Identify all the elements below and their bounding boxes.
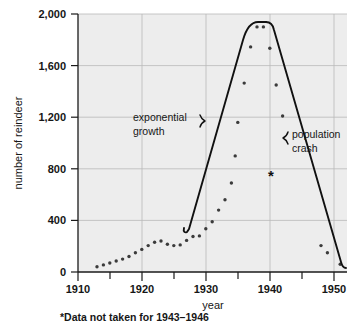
data-point	[249, 45, 252, 48]
data-point	[95, 265, 98, 268]
data-point	[198, 234, 201, 237]
annotation-population-crash-line1: population	[292, 128, 341, 140]
data-point	[211, 220, 214, 223]
data-point	[236, 121, 239, 124]
y-tick-label-800: 800	[48, 163, 66, 175]
data-point	[102, 263, 105, 266]
annotation-exponential-growth-line2: growth	[133, 125, 165, 137]
x-tick-label-1930: 1930	[194, 283, 218, 295]
data-point	[230, 181, 233, 184]
y-tick-label-400: 400	[48, 214, 66, 226]
data-point	[234, 154, 237, 157]
missing-data-asterisk-icon: *	[268, 167, 274, 184]
y-axis-title: number of reindeer	[12, 96, 24, 189]
data-point	[153, 241, 156, 244]
data-point	[127, 255, 130, 258]
data-point	[319, 244, 322, 247]
chart-footnote: *Data not taken for 1943–1946	[60, 311, 209, 323]
data-point	[147, 244, 150, 247]
data-point	[223, 198, 226, 201]
data-point	[191, 235, 194, 238]
y-tick-labels: 2,000 1,600 1,200 800 400 0	[38, 8, 66, 278]
data-point	[179, 243, 182, 246]
data-point	[166, 243, 169, 246]
data-point	[275, 83, 278, 86]
chart-figure: 2,000 1,600 1,200 800 400 0 1910 1920 19…	[0, 0, 354, 328]
data-point	[115, 259, 118, 262]
y-tick-label-1200: 1,200	[38, 111, 66, 123]
data-point	[172, 244, 175, 247]
x-tick-label-1950: 1950	[322, 283, 346, 295]
data-point	[255, 25, 258, 28]
annotation-population-crash-line2: crash	[292, 142, 318, 154]
data-point	[281, 114, 284, 117]
x-axis-title: year	[202, 299, 224, 311]
data-point	[185, 239, 188, 242]
data-point	[134, 251, 137, 254]
data-point	[217, 208, 220, 211]
data-point	[108, 261, 111, 264]
data-point	[243, 81, 246, 84]
y-tick-label-0: 0	[60, 266, 66, 278]
data-point	[121, 257, 124, 260]
x-tick-marks-major	[78, 272, 334, 281]
data-point	[140, 248, 143, 251]
y-tick-label-2000: 2,000	[38, 8, 66, 20]
data-point	[159, 239, 162, 242]
x-tick-labels: 1910 1920 1930 1940 1950	[66, 283, 346, 295]
data-point	[262, 25, 265, 28]
y-tick-label-1600: 1,600	[38, 60, 66, 72]
data-point	[204, 227, 207, 230]
x-tick-label-1940: 1940	[258, 283, 282, 295]
data-point	[326, 251, 329, 254]
y-tick-marks	[71, 14, 78, 272]
reindeer-population-scatter-chart: 2,000 1,600 1,200 800 400 0 1910 1920 19…	[0, 0, 354, 328]
x-tick-label-1920: 1920	[130, 283, 154, 295]
data-point	[268, 47, 271, 50]
annotation-exponential-growth-line1: exponential	[133, 111, 187, 123]
x-tick-label-1910: 1910	[66, 283, 90, 295]
